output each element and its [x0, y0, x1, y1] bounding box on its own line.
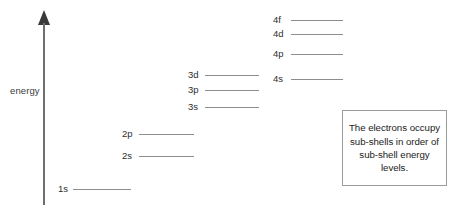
level-label-1s: 1s [58, 184, 68, 194]
energy-axis-label: energy [10, 85, 40, 96]
level-line-3s [205, 107, 259, 108]
level-line-3d [205, 75, 259, 76]
level-label-2p: 2p [122, 129, 133, 139]
level-line-2p [139, 134, 194, 135]
level-line-4p [291, 54, 343, 55]
energy-axis-line [43, 23, 45, 205]
energy-level-diagram: energy 1s2s2p3s3p3d4s4p4d4f The electron… [0, 0, 460, 213]
level-label-4f: 4f [273, 15, 281, 25]
explanation-note-text: The electrons occupy sub-shells in order… [347, 121, 442, 175]
level-line-4d [291, 34, 343, 35]
level-label-4p: 4p [273, 49, 284, 59]
level-label-3p: 3p [188, 85, 199, 95]
level-label-3d: 3d [188, 70, 199, 80]
level-line-1s [73, 189, 131, 190]
explanation-note-box: The electrons occupy sub-shells in order… [342, 110, 447, 186]
level-line-3p [205, 90, 259, 91]
level-line-4f [291, 20, 343, 21]
level-line-4s [291, 79, 343, 80]
level-label-3s: 3s [188, 102, 198, 112]
level-line-2s [139, 156, 194, 157]
level-label-4d: 4d [273, 29, 284, 39]
level-label-4s: 4s [273, 74, 283, 84]
level-label-2s: 2s [122, 151, 132, 161]
